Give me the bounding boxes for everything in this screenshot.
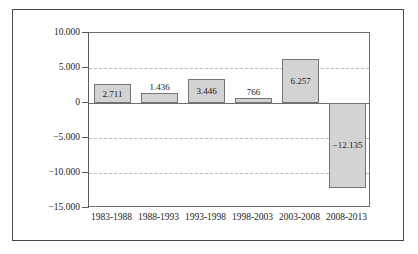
y-tick-label-wrap: −10.000 [0, 167, 80, 177]
gridline-−10.000 [89, 173, 369, 174]
gridline-5.000 [89, 68, 369, 69]
bar-value-label: 6.257 [269, 76, 332, 86]
y-axis-tick-label: 5.000 [14, 62, 80, 72]
bar-value-label: −12.135 [316, 140, 379, 150]
y-tick-mark [82, 137, 89, 138]
x-axis-tick-label: 1998-2003 [229, 211, 276, 223]
bar-chart: 2.7111.4363.4467666.257−12.135 10.0005.0… [0, 0, 418, 254]
x-axis-tick-label: 2003-2008 [276, 211, 323, 223]
y-axis-line [88, 32, 89, 207]
y-tick-mark [82, 102, 89, 103]
x-axis-tick-label: 1993-1998 [182, 211, 229, 223]
y-tick-mark [82, 207, 89, 208]
y-axis-tick-label: 0 [14, 97, 80, 107]
bar-1988-1993 [141, 93, 178, 103]
bar-value-label: 766 [222, 87, 285, 97]
gridline-−5.000 [89, 138, 369, 139]
x-axis-tick-label: 1988-1993 [135, 211, 182, 223]
y-tick-label-wrap: 10.000 [0, 27, 80, 37]
y-axis-tick-label: −15.000 [14, 202, 80, 212]
bar-1998-2003 [235, 98, 272, 103]
y-tick-label-wrap: −5.000 [0, 132, 80, 142]
y-tick-mark [82, 67, 89, 68]
y-tick-label-wrap: 5.000 [0, 62, 80, 72]
y-axis-tick-label: 10.000 [14, 27, 80, 37]
zero-baseline [89, 103, 369, 104]
x-axis-tick-label: 1983-1988 [88, 211, 135, 223]
y-axis-tick-label: −5.000 [14, 132, 80, 142]
plot-area: 2.7111.4363.4467666.257−12.135 [88, 32, 370, 207]
y-axis-tick-label: −10.000 [14, 167, 80, 177]
y-tick-label-wrap: 0 [0, 97, 80, 107]
y-tick-label-wrap: −15.000 [0, 202, 80, 212]
x-axis-tick-label: 2008-2013 [323, 211, 370, 223]
y-tick-mark [82, 172, 89, 173]
y-tick-mark [82, 32, 89, 33]
